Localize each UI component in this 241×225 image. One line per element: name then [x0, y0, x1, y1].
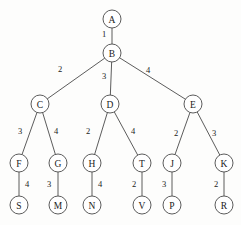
tree-node[interactable]: E	[184, 95, 202, 113]
edge-weight-label: 4	[146, 65, 151, 75]
tree-edge	[47, 58, 104, 99]
tree-node[interactable]: P	[163, 196, 181, 214]
tree-node[interactable]: G	[49, 154, 67, 172]
tree-node[interactable]: F	[10, 154, 28, 172]
tree-edge	[120, 58, 186, 99]
node-label: V	[139, 201, 146, 211]
tree-diagram-canvas: 1234342423434232 ABCDEFGHTJKSMNVPR	[0, 0, 241, 225]
tree-node[interactable]: H	[83, 154, 101, 172]
nodes-layer: ABCDEFGHTJKSMNVPR	[10, 10, 233, 214]
node-label: T	[139, 159, 145, 169]
node-label: P	[169, 201, 174, 211]
tree-node[interactable]: B	[103, 44, 121, 62]
edge-weight-label: 2	[58, 64, 62, 74]
tree-node[interactable]: M	[49, 196, 67, 214]
edge-weight-label: 2	[86, 126, 90, 136]
edge-weight-label: 3	[18, 126, 22, 136]
node-label: A	[109, 15, 116, 25]
edge-weight-label: 3	[162, 179, 166, 189]
node-label: H	[89, 159, 96, 169]
tree-edge	[197, 112, 220, 155]
edge-weight-label: 4	[98, 179, 103, 189]
tree-node[interactable]: N	[83, 196, 101, 214]
tree-node[interactable]: S	[10, 196, 28, 214]
node-label: N	[89, 201, 96, 211]
node-label: B	[109, 49, 115, 59]
edge-weight-label: 3	[47, 179, 51, 189]
edge-weight-label: 2	[214, 179, 218, 189]
edge-weight-label: 3	[212, 128, 216, 138]
edge-weight-label: 4	[131, 126, 136, 136]
tree-node[interactable]: R	[215, 196, 233, 214]
tree-node[interactable]: D	[101, 95, 119, 113]
node-label: M	[54, 201, 63, 211]
tree-node[interactable]: K	[215, 154, 233, 172]
node-label: S	[16, 201, 21, 211]
edge-weight-label: 4	[54, 126, 59, 136]
tree-diagram-svg: 1234342423434232 ABCDEFGHTJKSMNVPR	[0, 0, 241, 225]
edge-weight-label: 4	[25, 179, 30, 189]
edge-weight-label: 2	[174, 128, 178, 138]
tree-edge	[22, 112, 37, 154]
tree-node[interactable]: C	[31, 95, 49, 113]
tree-edge	[110, 62, 111, 95]
edge-weight-label: 1	[102, 29, 106, 39]
node-label: K	[221, 159, 228, 169]
edge-weight-label: 3	[102, 71, 106, 81]
tree-node[interactable]: V	[133, 196, 151, 214]
tree-node[interactable]: T	[133, 154, 151, 172]
tree-node[interactable]: A	[103, 10, 121, 28]
node-label: R	[221, 201, 228, 211]
node-label: G	[55, 159, 62, 169]
node-label: E	[190, 100, 196, 110]
node-label: D	[107, 100, 114, 110]
node-label: C	[37, 100, 43, 110]
node-label: F	[16, 159, 21, 169]
tree-node[interactable]: J	[163, 154, 181, 172]
node-label: J	[170, 159, 174, 169]
edge-weight-label: 2	[132, 179, 136, 189]
tree-edge	[95, 113, 108, 155]
